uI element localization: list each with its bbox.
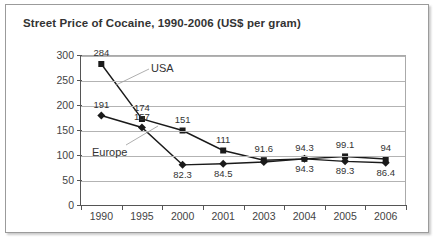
data-point-marker (219, 160, 227, 168)
x-axis-tick-mark (325, 205, 326, 210)
x-axis-tick-label: 1990 (90, 210, 113, 222)
data-label: 284 (93, 47, 109, 58)
gridline (81, 131, 405, 132)
gridline (81, 181, 405, 182)
data-label: 94 (380, 142, 391, 153)
data-label: 111 (216, 134, 230, 145)
y-axis-tick-label: 100 (56, 149, 74, 161)
data-label: 89.3 (336, 165, 355, 176)
data-label: 84.5 (214, 168, 233, 179)
data-label: 191 (93, 99, 109, 110)
x-axis-tick-mark (162, 205, 163, 210)
x-axis-tick-mark (244, 205, 245, 210)
data-label: 86.4 (376, 167, 395, 178)
x-axis-tick-label: 2001 (212, 210, 235, 222)
series-annotation-usa: USA (151, 62, 174, 74)
gridline (81, 81, 405, 82)
data-label: 99.1 (336, 139, 355, 150)
x-axis-tick-label: 1995 (130, 210, 153, 222)
x-axis-tick-mark (122, 205, 123, 210)
y-axis-tick-label: 150 (56, 124, 74, 136)
x-axis-tick-mark (81, 205, 82, 210)
data-label: 91.6 (255, 143, 274, 154)
gridline (81, 56, 405, 57)
chart-title: Street Price of Cocaine, 1990-2006 (US$ … (23, 17, 301, 29)
data-label: 94.3 (295, 142, 314, 153)
data-point-marker (98, 61, 104, 67)
gridline (81, 156, 405, 157)
data-label: 82.3 (173, 169, 192, 180)
y-axis-tick-label: 300 (56, 49, 74, 61)
y-axis-tick-mark (77, 55, 82, 56)
y-axis-tick-label: 200 (56, 99, 74, 111)
data-point-marker (220, 148, 226, 154)
x-axis-tick-mark (203, 205, 204, 210)
chart-card: Street Price of Cocaine, 1990-2006 (US$ … (5, 4, 429, 233)
y-axis-tick-mark (77, 80, 82, 81)
y-axis-tick-label: 0 (68, 199, 74, 211)
y-axis-tick-label: 250 (56, 74, 74, 86)
plot-area (81, 55, 406, 205)
y-axis-tick-label: 50 (62, 174, 74, 186)
data-label: 157 (134, 111, 150, 122)
series-annotation-europe: Europe (92, 146, 127, 158)
x-axis-tick-label: 2006 (374, 210, 397, 222)
y-axis-tick-mark (77, 180, 82, 181)
x-axis-tick-mark (406, 205, 407, 210)
x-axis-tick-label: 2000 (171, 210, 194, 222)
data-label: 151 (175, 114, 191, 125)
x-axis-tick-label: 2004 (293, 210, 316, 222)
y-axis-tick-mark (77, 130, 82, 131)
y-axis-tick-mark (77, 105, 82, 106)
x-axis-tick-label: 2003 (252, 210, 275, 222)
gridline (81, 106, 405, 107)
data-point-marker (97, 112, 105, 120)
x-axis-tick-mark (365, 205, 366, 210)
data-label: 94.3 (295, 163, 314, 174)
x-axis-tick-mark (284, 205, 285, 210)
y-axis-tick-mark (77, 155, 82, 156)
x-axis-tick-label: 2005 (333, 210, 356, 222)
